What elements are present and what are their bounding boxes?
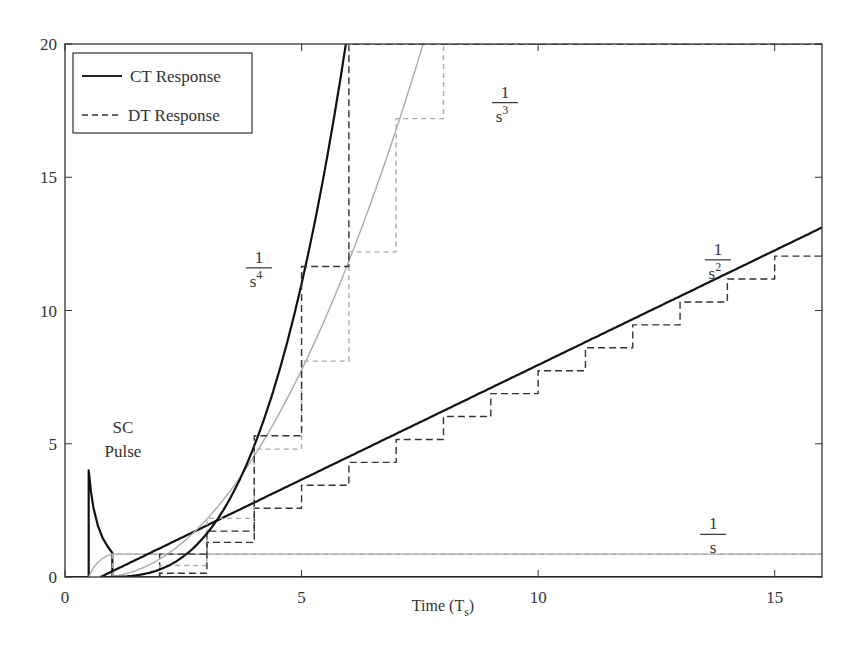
series-1-s-dt [112, 554, 822, 577]
annotations: SC Pulse 1s1s21s31s4 [105, 83, 731, 558]
x-tick-label: 0 [61, 588, 70, 607]
svg-text:s: s [710, 538, 717, 557]
y-tick-label: 20 [40, 35, 57, 54]
chart: 05101505101520 Time (Ts) CT Response DT … [0, 0, 860, 669]
svg-text:s2: s2 [709, 260, 722, 283]
transfer-function-label-1-over-s: 1s [700, 514, 726, 557]
sc-pulse-label: SC [113, 418, 134, 437]
svg-text:1: 1 [714, 240, 723, 259]
x-axis-title: Time (Ts) [412, 597, 474, 619]
series-1-s-4-dt [160, 44, 822, 577]
transfer-function-label-1-over-s3: 1s3 [492, 83, 518, 126]
sc-pulse-label-line2: Pulse [105, 442, 142, 461]
series-1-s-ct [89, 554, 822, 577]
svg-text:s4: s4 [250, 268, 263, 291]
svg-text:1: 1 [255, 248, 264, 267]
svg-text:s3: s3 [496, 103, 509, 126]
svg-text:1: 1 [501, 83, 510, 102]
legend-dt-label: DT Response [128, 106, 220, 125]
transfer-function-label-1-over-s2: 1s2 [705, 240, 731, 283]
transfer-function-label-1-over-s4: 1s4 [246, 248, 272, 291]
x-tick-label: 5 [297, 588, 306, 607]
y-tick-label: 5 [49, 435, 58, 454]
x-tick-label: 15 [766, 588, 783, 607]
y-tick-label: 10 [40, 302, 57, 321]
y-tick-label: 0 [49, 568, 58, 587]
legend-ct-label: CT Response [130, 67, 221, 86]
legend: CT Response DT Response [73, 53, 252, 133]
svg-text:1: 1 [709, 514, 718, 533]
y-tick-label: 15 [40, 168, 57, 187]
x-tick-label: 10 [530, 588, 547, 607]
series-1-s-3-dt [160, 44, 822, 577]
